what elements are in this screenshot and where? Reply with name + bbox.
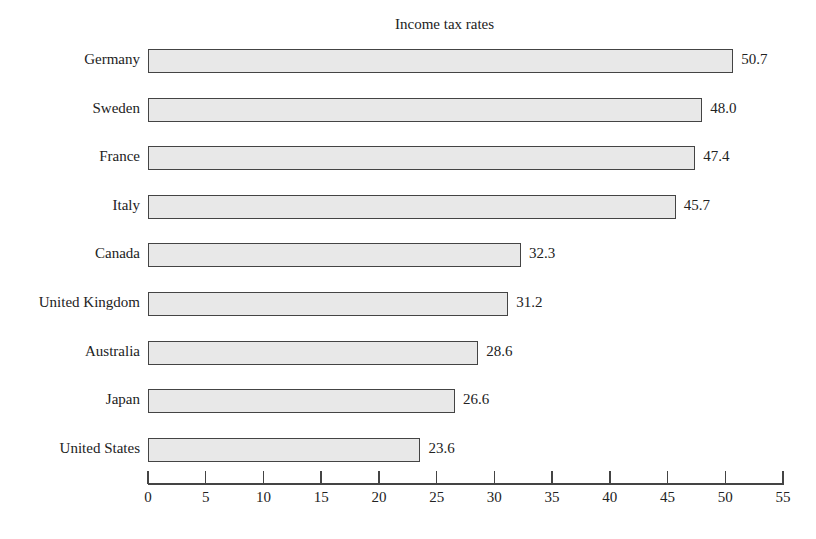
- value-label: 50.7: [741, 51, 767, 68]
- x-tick-label: 40: [602, 489, 617, 506]
- x-tick: [205, 471, 207, 484]
- x-tick-label: 55: [776, 489, 791, 506]
- value-label: 32.3: [529, 245, 555, 262]
- category-label: United Kingdom: [39, 294, 140, 311]
- value-label: 26.6: [463, 391, 489, 408]
- x-tick: [494, 471, 496, 484]
- category-label: Australia: [85, 343, 140, 360]
- bar: [148, 292, 508, 316]
- x-axis-line: [148, 483, 784, 485]
- x-tick-label: 5: [202, 489, 210, 506]
- x-tick: [378, 471, 380, 484]
- x-tick: [551, 471, 553, 484]
- x-tick-label: 15: [314, 489, 329, 506]
- x-tick: [725, 471, 727, 484]
- x-tick: [263, 471, 265, 484]
- x-tick-label: 45: [660, 489, 675, 506]
- value-label: 47.4: [703, 148, 729, 165]
- value-label: 48.0: [710, 100, 736, 117]
- x-tick-label: 50: [718, 489, 733, 506]
- bar: [148, 341, 478, 365]
- chart-title: Income tax rates: [395, 16, 494, 33]
- bar: [148, 438, 420, 462]
- category-label: Italy: [113, 197, 141, 214]
- x-tick-label: 0: [144, 489, 152, 506]
- bar: [148, 146, 695, 170]
- category-label: Japan: [106, 391, 140, 408]
- x-tick: [320, 471, 322, 484]
- x-tick-label: 35: [545, 489, 560, 506]
- bar: [148, 195, 676, 219]
- x-tick-label: 25: [429, 489, 444, 506]
- x-tick: [609, 471, 611, 484]
- x-tick: [782, 471, 784, 484]
- category-label: France: [99, 148, 140, 165]
- x-tick: [147, 471, 149, 484]
- x-tick-label: 10: [256, 489, 271, 506]
- category-label: United States: [60, 440, 140, 457]
- category-label: Sweden: [93, 100, 141, 117]
- bar: [148, 389, 455, 413]
- x-tick: [436, 471, 438, 484]
- value-label: 23.6: [428, 440, 454, 457]
- bar: [148, 49, 733, 73]
- bar: [148, 98, 702, 122]
- category-label: Canada: [95, 245, 140, 262]
- value-label: 31.2: [516, 294, 542, 311]
- x-tick-label: 20: [371, 489, 386, 506]
- category-label: Germany: [84, 51, 140, 68]
- x-tick-label: 30: [487, 489, 502, 506]
- x-tick: [667, 471, 669, 484]
- value-label: 45.7: [684, 197, 710, 214]
- bar: [148, 243, 521, 267]
- value-label: 28.6: [486, 343, 512, 360]
- bar-chart: Income tax rates Germany50.7Sweden48.0Fr…: [0, 0, 816, 539]
